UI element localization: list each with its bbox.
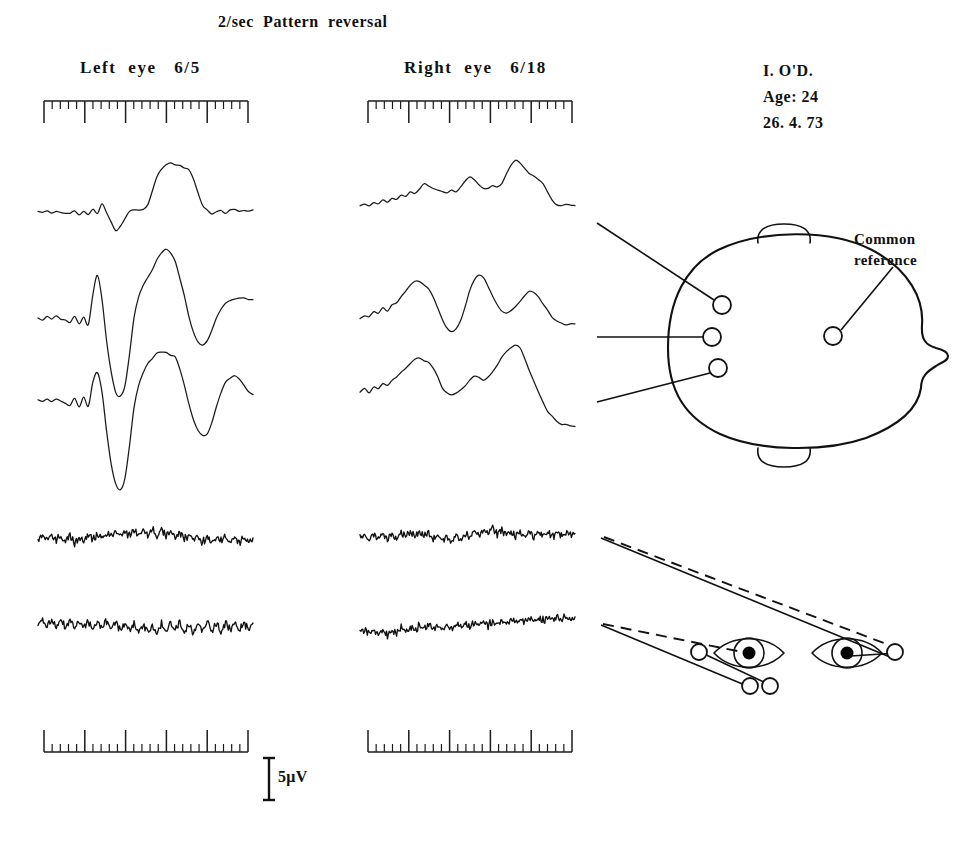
waveform-trace [38,249,253,396]
timebase-ruler-right-bottom [368,730,572,752]
figure-canvas [0,0,977,846]
waveform-trace [360,345,575,426]
waveform-trace [38,352,253,490]
timebase-ruler-left-bottom [44,730,248,752]
right-eye-glyph [812,638,882,668]
amplitude-calibration-bar [263,758,275,800]
vep-figure: 2/sec Pattern reversal Left eye 6/5 Righ… [0,0,977,846]
waveform-trace [360,160,575,206]
waveform-trace [360,525,575,543]
waveform-traces [38,160,575,639]
timebase-ruler-right-top [368,101,572,123]
timebase-rulers [44,101,572,752]
waveform-trace [38,618,253,635]
head-diagram [597,223,948,467]
timebase-ruler-left-top [44,101,248,123]
waveform-trace [360,275,575,332]
waveform-trace [360,614,575,639]
waveform-trace [38,527,253,547]
waveform-trace [38,163,253,231]
eye-pathway-diagram [601,537,903,694]
